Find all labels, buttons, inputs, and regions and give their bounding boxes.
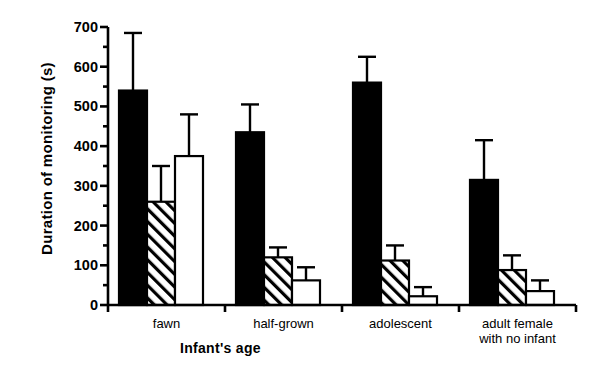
x-category-label: adolescent bbox=[369, 316, 432, 331]
bars bbox=[119, 33, 554, 305]
x-category-label: adult femalewith no infant bbox=[479, 316, 556, 346]
x-category-label: fawn bbox=[153, 316, 180, 331]
x-category-label-line: half-grown bbox=[253, 316, 314, 331]
y-tick-label: 300 bbox=[52, 179, 98, 194]
y-tick-label: 400 bbox=[52, 139, 98, 154]
x-category-label-line: adult female bbox=[479, 316, 556, 331]
y-tick-label: 700 bbox=[52, 20, 98, 35]
x-category-label-line: fawn bbox=[153, 316, 180, 331]
bar-1-1 bbox=[119, 91, 147, 305]
bar-2-1 bbox=[236, 132, 264, 305]
y-tick-label: 0 bbox=[52, 298, 98, 313]
x-category-label-line: adolescent bbox=[369, 316, 432, 331]
x-category-label: half-grown bbox=[253, 316, 314, 331]
bar-4-3 bbox=[526, 291, 554, 305]
bar-4-1 bbox=[470, 180, 498, 305]
bar-4-2 bbox=[498, 270, 526, 305]
bar-3-2 bbox=[381, 261, 409, 305]
bar-chart: Duration of monitoring (s) Infant's age … bbox=[0, 0, 603, 370]
bar-3-1 bbox=[353, 83, 381, 305]
bar-1-3 bbox=[175, 156, 203, 305]
bar-3-3 bbox=[409, 296, 437, 305]
y-tick-label: 100 bbox=[52, 258, 98, 273]
bar-1-2 bbox=[147, 202, 175, 305]
y-tick-label: 200 bbox=[52, 218, 98, 233]
y-tick-label: 500 bbox=[52, 99, 98, 114]
bar-2-3 bbox=[292, 280, 320, 305]
bar-2-2 bbox=[264, 257, 292, 305]
x-axis-title: Infant's age bbox=[180, 340, 261, 356]
y-tick-label: 600 bbox=[52, 59, 98, 74]
x-category-label-line: with no infant bbox=[479, 331, 556, 346]
